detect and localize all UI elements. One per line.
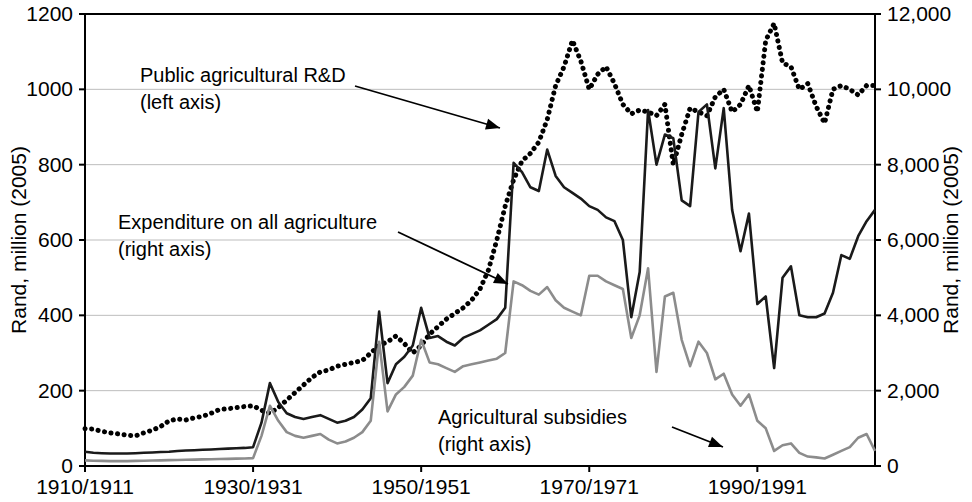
y-axis-right-title: Rand, million (2005) <box>939 146 962 334</box>
x-axis-ticks: 1910/19111930/19311950/19511970/19711990… <box>36 466 807 498</box>
annotation-axis-note-expenditure-all-agriculture: (right axis) <box>118 238 211 260</box>
y-axis-left-tick-label: 400 <box>38 303 73 326</box>
annotation-label-public-agricultural-rd: Public agricultural R&D <box>140 64 346 86</box>
annotation-axis-note-public-agricultural-rd: (left axis) <box>140 91 221 113</box>
y-axis-left-tick-label: 800 <box>38 153 73 176</box>
y-axis-left-tick-label: 1000 <box>26 77 73 100</box>
x-axis-tick-label: 1970/1971 <box>540 475 639 498</box>
y-axis-right-tick-label: 6,000 <box>887 228 940 251</box>
y-axis-right-tick-label: 10,000 <box>887 77 951 100</box>
x-axis-tick-label: 1930/1931 <box>203 475 302 498</box>
x-axis-tick-label: 1950/1951 <box>372 475 471 498</box>
x-axis-tick-label: 1910/1911 <box>36 475 134 498</box>
y-axis-right-tick-label: 12,000 <box>887 2 951 25</box>
y-axis-left-ticks: 020040060080010001200 <box>26 2 85 477</box>
y-axis-right-tick-label: 8,000 <box>887 153 940 176</box>
y-axis-right-tick-label: 0 <box>887 454 899 477</box>
chart-container: 020040060080010001200 02,0004,0006,0008,… <box>0 0 972 502</box>
y-axis-left-tick-label: 200 <box>38 379 73 402</box>
y-axis-left-tick-label: 0 <box>61 454 73 477</box>
x-axis-tick-label: 1990/1991 <box>708 475 807 498</box>
y-axis-right-tick-label: 2,000 <box>887 379 940 402</box>
annotation-axis-note-agricultural-subsidies: (right axis) <box>438 433 531 455</box>
y-axis-right-tick-label: 4,000 <box>887 303 940 326</box>
y-axis-left-title: Rand, million (2005) <box>7 146 30 334</box>
annotation-label-agricultural-subsidies: Agricultural subsidies <box>438 406 627 428</box>
y-axis-left-tick-label: 1200 <box>26 2 73 25</box>
annotation-label-expenditure-all-agriculture: Expenditure on all agriculture <box>118 211 377 233</box>
chart-svg: 020040060080010001200 02,0004,0006,0008,… <box>0 0 972 502</box>
y-axis-left-tick-label: 600 <box>38 228 73 251</box>
